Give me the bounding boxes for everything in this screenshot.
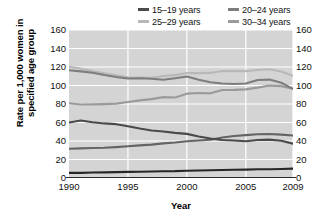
y-axis-title-line1: Rate per 1,000 women in: [14, 2, 25, 144]
chart-figure: 15–19 years 20–24 years 25–29 years 30–3…: [0, 0, 329, 219]
x-tick-label: 2005: [229, 181, 263, 192]
legend-swatch-15-19: [138, 8, 149, 11]
y-tick-label-left: 120: [38, 62, 66, 72]
y-tick-label-right: 100: [296, 81, 324, 91]
legend-item-15-19: 15–19 years: [138, 4, 224, 15]
y-tick-label-left: 140: [38, 44, 66, 54]
x-axis-title: Year: [69, 200, 293, 211]
x-tick-label: 1990: [52, 181, 86, 192]
y-tick-label-left: 160: [38, 25, 66, 35]
legend-swatch-25-29: [138, 20, 149, 23]
x-tick-label: 1995: [111, 181, 145, 192]
series-line: [69, 86, 293, 105]
legend-swatch-30-34: [228, 20, 239, 23]
y-tick-label-right: 80: [296, 99, 324, 109]
y-tick-label-right: 120: [296, 62, 324, 72]
plot-area: [69, 30, 293, 178]
series-canvas: [69, 30, 293, 178]
y-tick-label-right: 140: [296, 44, 324, 54]
x-tick-label: 2000: [170, 181, 204, 192]
series-line: [69, 67, 293, 78]
y-tick-label-left: 60: [38, 118, 66, 128]
y-tick-label-left: 20: [38, 155, 66, 165]
series-line: [69, 169, 293, 173]
legend-label-20-24: 20–24 years: [242, 5, 290, 15]
y-tick-label-right: 40: [296, 136, 324, 146]
y-tick-label-left: 100: [38, 81, 66, 91]
legend-label-15-19: 15–19 years: [152, 5, 200, 15]
y-axis-title: Rate per 1,000 women in specified age gr…: [14, 2, 36, 144]
y-tick-label-right: 60: [296, 118, 324, 128]
series-line: [69, 121, 293, 144]
legend-label-30-34: 30–34 years: [242, 17, 290, 27]
y-tick-label-right: 160: [296, 25, 324, 35]
x-axis-line: [66, 177, 296, 178]
legend-item-25-29: 25–29 years: [138, 16, 224, 27]
x-axis-ticks: 19901995200020052009: [0, 181, 329, 195]
legend-swatch-20-24: [228, 8, 239, 11]
y-tick-label-right: 20: [296, 155, 324, 165]
x-tick-label: 2009: [276, 181, 310, 192]
legend-label-25-29: 25–29 years: [152, 17, 200, 27]
y-tick-label-left: 40: [38, 136, 66, 146]
y-tick-label-left: 80: [38, 99, 66, 109]
y-axis-title-line2: specified age group: [25, 2, 36, 144]
